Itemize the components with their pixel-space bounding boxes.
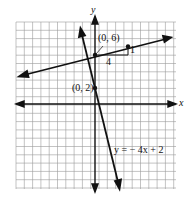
point-0-2-label: (0, 2) [72, 83, 94, 93]
grid [16, 22, 176, 189]
x-axis-label: x [179, 98, 183, 108]
coordinate-graph [0, 0, 188, 197]
rise-label: 1 [130, 45, 135, 55]
point-0-6-label: (0, 6) [98, 33, 120, 43]
x-axis [16, 101, 176, 107]
run-label: 4 [106, 57, 111, 67]
y-axis-label: y [91, 5, 95, 15]
equation-label: y = − 4x + 2 [114, 145, 163, 155]
